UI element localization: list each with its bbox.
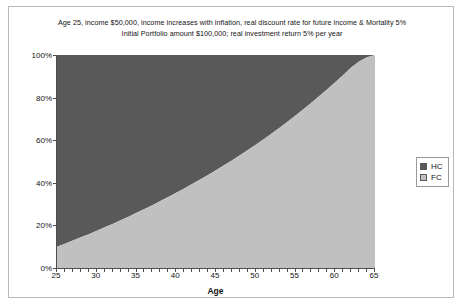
x-axis-label: 45 bbox=[200, 271, 230, 280]
x-axis-label: 30 bbox=[81, 271, 111, 280]
chart-frame: Age 25, income $50,000, income increases… bbox=[8, 6, 454, 298]
chart-legend: HCFC bbox=[416, 157, 449, 187]
legend-item-fc[interactable]: FC bbox=[420, 172, 443, 183]
x-axis-label: 60 bbox=[319, 271, 349, 280]
x-axis-label: 35 bbox=[121, 271, 151, 280]
legend-label: HC bbox=[431, 162, 443, 171]
legend-item-hc[interactable]: HC bbox=[420, 161, 443, 172]
x-axis-title: Age bbox=[56, 286, 375, 296]
x-axis-labels: 253035404550556065 bbox=[56, 271, 375, 285]
x-axis-label: 25 bbox=[41, 271, 71, 280]
x-axis-ticks bbox=[9, 7, 455, 297]
x-axis-label: 65 bbox=[359, 271, 389, 280]
x-axis-label: 50 bbox=[240, 271, 270, 280]
legend-swatch-icon bbox=[420, 174, 427, 181]
x-axis-label: 55 bbox=[280, 271, 310, 280]
x-axis-label: 40 bbox=[160, 271, 190, 280]
legend-label: FC bbox=[431, 173, 442, 182]
legend-swatch-icon bbox=[420, 163, 427, 170]
